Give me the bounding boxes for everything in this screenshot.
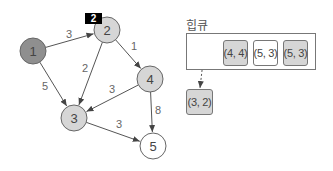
edge-weight-label: 5 <box>42 80 48 92</box>
heap-item: (5, 3) <box>253 40 278 66</box>
edge-4-5 <box>151 92 153 132</box>
edge-weight-label: 3 <box>109 83 115 95</box>
graph-diagram: 3521383 12345 2 <box>0 0 333 171</box>
edge-weight-label: 3 <box>116 118 122 130</box>
distance-tag-value: 2 <box>91 13 97 24</box>
edge-3-5 <box>86 122 140 141</box>
heap-title: 힙큐 <box>186 16 208 33</box>
edge-weight-label: 8 <box>155 104 161 116</box>
heap-item: (4, 4) <box>223 40 248 66</box>
node-label: 4 <box>146 72 153 87</box>
node-label: 1 <box>29 44 36 59</box>
node-label: 2 <box>103 23 110 38</box>
edge-weight-label: 2 <box>82 62 88 74</box>
node-label: 5 <box>149 139 156 154</box>
popped-heap-item: (3, 2) <box>186 89 213 115</box>
node-label: 3 <box>70 111 77 126</box>
edge-weight-label: 1 <box>131 40 137 52</box>
edge-weight-label: 3 <box>66 28 72 40</box>
heap-item: (5, 3) <box>283 40 308 66</box>
distance-tag: 2 <box>85 13 102 24</box>
heap-queue-box: (4, 4) (5, 3) (5, 3) <box>186 33 316 70</box>
